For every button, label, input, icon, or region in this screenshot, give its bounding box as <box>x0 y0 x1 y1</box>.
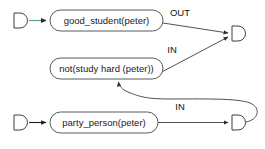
node-not-study-hard[interactable]: not(study hard (peter)) <box>50 58 163 79</box>
node-label-party-person: party_person(peter) <box>62 117 145 128</box>
diagram-canvas: OUT IN IN good_student(peter) not(study … <box>0 0 265 149</box>
edge-label-in-lower: IN <box>175 101 185 112</box>
edge-party-person-in: IN <box>158 101 228 123</box>
node-party-person[interactable]: party_person(peter) <box>50 112 158 133</box>
diagram-svg: OUT IN IN good_student(peter) not(study … <box>0 0 265 149</box>
edge-label-out: OUT <box>170 7 190 18</box>
edge-good-student-out: OUT <box>163 7 228 33</box>
port-right-bottom[interactable] <box>232 115 246 130</box>
port-right-top[interactable] <box>232 26 246 41</box>
node-good-student[interactable]: good_student(peter) <box>50 10 163 31</box>
edge-label-in-upper: IN <box>167 44 177 55</box>
edge-not-study-in: IN <box>158 37 228 74</box>
port-bottom-left[interactable] <box>14 115 28 130</box>
node-label-not-study-hard: not(study hard (peter)) <box>59 63 154 74</box>
port-top-left[interactable] <box>14 13 28 28</box>
node-label-good-student: good_student(peter) <box>64 15 150 26</box>
